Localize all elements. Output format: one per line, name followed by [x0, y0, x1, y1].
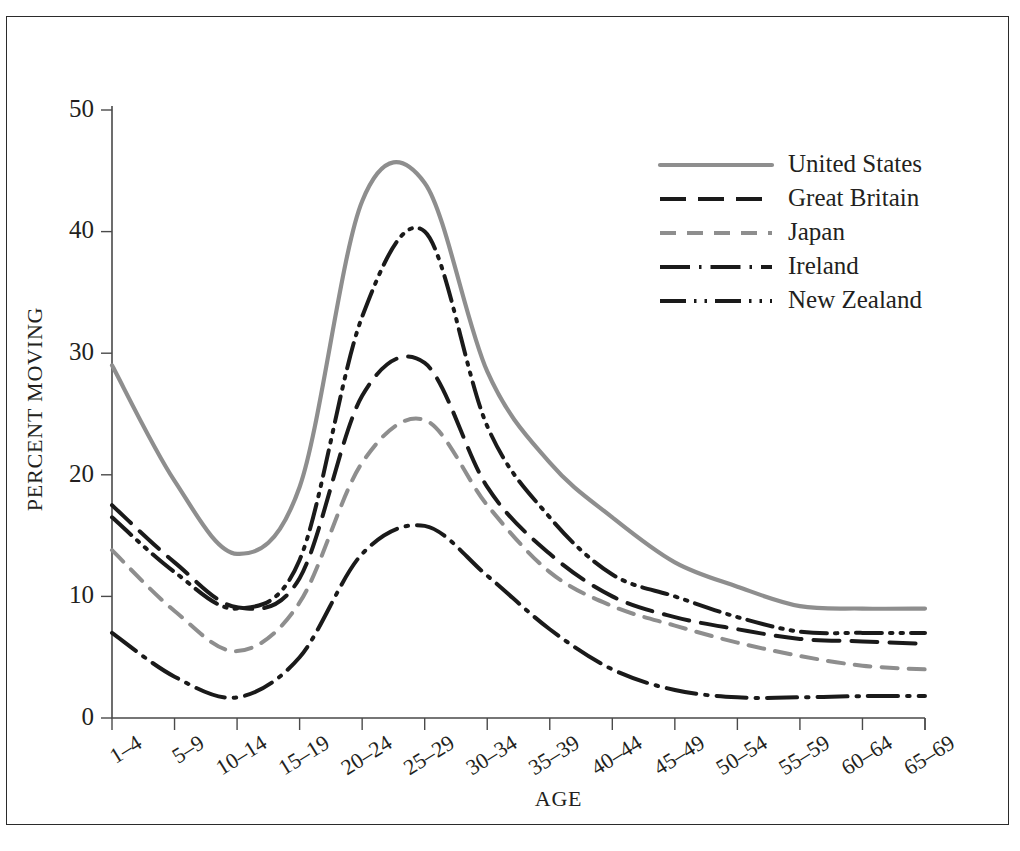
x-tick-label: 25–29	[399, 730, 459, 780]
x-tick-label: 65–69	[899, 730, 959, 780]
legend-label-japan[interactable]: Japan	[788, 218, 845, 245]
x-tick-label: 40–44	[586, 730, 646, 780]
legend-label-ireland[interactable]: Ireland	[788, 252, 859, 279]
legend-label-united-states[interactable]: United States	[788, 150, 922, 177]
y-tick-label: 10	[69, 581, 94, 608]
y-tick-label: 0	[82, 703, 95, 730]
y-tick-label: 30	[69, 338, 94, 365]
legend-label-new-zealand[interactable]: New Zealand	[788, 286, 922, 313]
y-axis-title: PERCENT MOVING	[22, 307, 47, 512]
x-axis-title: AGE	[535, 786, 583, 811]
y-tick-label: 20	[69, 460, 94, 487]
x-tick-label: 45–49	[649, 730, 709, 780]
x-tick-label: 55–59	[774, 730, 834, 780]
y-tick-label: 40	[69, 216, 94, 243]
x-tick-label: 1–4	[105, 730, 146, 769]
x-tick-label: 35–39	[524, 730, 584, 780]
x-tick-label: 10–14	[211, 730, 271, 780]
x-tick-label: 15–19	[274, 730, 334, 780]
legend-label-great-britain[interactable]: Great Britain	[788, 184, 920, 211]
x-tick-label: 60–64	[837, 730, 897, 780]
x-tick-label: 30–34	[461, 730, 521, 780]
line-chart: 010203040501–45–910–1415–1920–2425–2930–…	[0, 0, 1020, 851]
y-tick-label: 50	[69, 95, 94, 122]
series-line-ireland	[112, 525, 925, 698]
chart-legend: United StatesGreat BritainJapanIrelandNe…	[660, 150, 922, 313]
chart-plot-area: 010203040501–45–910–1415–1920–2425–2930–…	[0, 0, 1020, 851]
x-tick-label: 50–54	[712, 730, 772, 780]
x-tick-label: 5–9	[167, 730, 208, 769]
x-tick-label: 20–24	[336, 730, 396, 780]
